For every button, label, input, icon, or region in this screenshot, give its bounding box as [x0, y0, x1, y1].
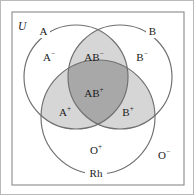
- venn-diagram: U A B Rh A− B− AB− AB+ A+: [1, 1, 194, 195]
- set-rh-label: Rh: [90, 167, 103, 179]
- region-o-neg-base: O: [158, 149, 166, 161]
- region-b-pos-sup: +: [130, 105, 134, 113]
- region-ab-pos-sup: +: [100, 86, 104, 94]
- region-ab-pos-base: AB: [84, 87, 99, 99]
- set-b-label: B: [149, 25, 156, 37]
- region-b-pos-base: B: [122, 106, 129, 118]
- universe-label: U: [18, 20, 27, 32]
- region-a-pos-base: A: [59, 106, 67, 118]
- region-a-pos-sup: +: [67, 105, 71, 113]
- region-ab-neg-sup: −: [100, 50, 104, 58]
- region-a-neg-base: A: [43, 51, 51, 63]
- region-b-neg-base: B: [136, 51, 143, 63]
- set-a-label: A: [40, 25, 48, 37]
- figure-outer-frame: U A B Rh A− B− AB− AB+ A+: [0, 0, 194, 195]
- region-b-neg-sup: −: [144, 50, 148, 58]
- region-o-pos-sup: +: [98, 143, 102, 151]
- region-ab-neg-base: AB: [84, 51, 99, 63]
- region-o-neg-sup: −: [166, 148, 170, 156]
- region-a-neg-sup: −: [51, 50, 55, 58]
- region-o-pos-base: O: [90, 144, 98, 156]
